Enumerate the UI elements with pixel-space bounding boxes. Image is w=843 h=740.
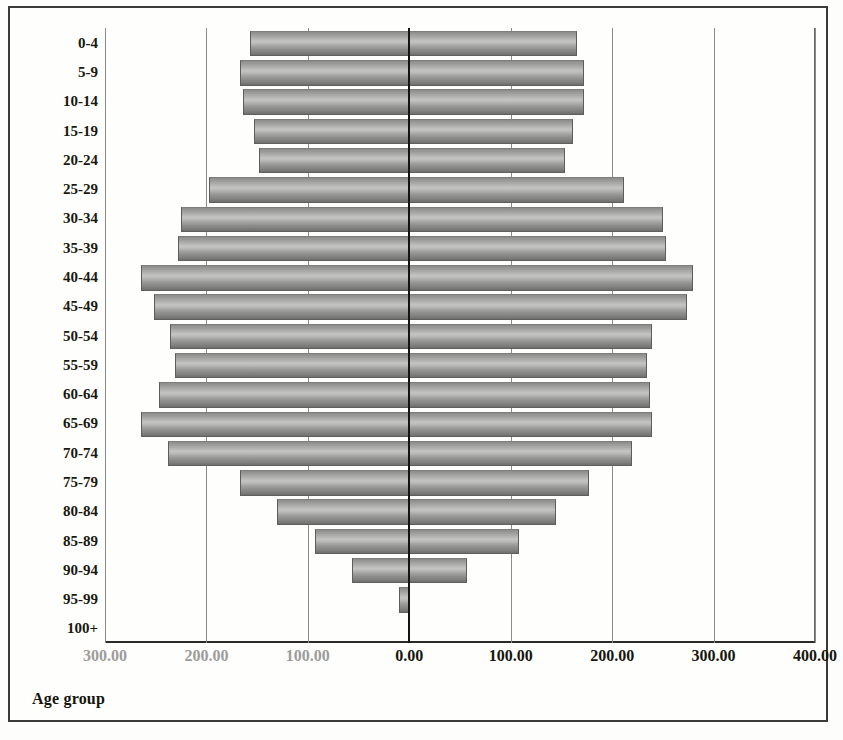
y-tick-label: 75-79 [63,475,98,490]
zero-axis-line [408,28,410,643]
y-tick-label: 60-64 [63,387,98,402]
pyramid-row [105,409,815,438]
pyramid-row [105,584,815,613]
x-tick-label: 200.00 [590,648,634,664]
y-tick-label: 5-9 [78,65,98,80]
gridline [815,28,816,643]
pyramid-row [105,28,815,57]
bar-female [409,558,467,583]
bar-female [409,499,556,524]
pyramid-row [105,145,815,174]
bar-female [409,294,687,319]
bar-male [159,382,411,407]
pyramid-row [105,174,815,203]
pyramid-row [105,233,815,262]
bar-female [409,89,583,114]
bar-male [240,470,410,495]
y-tick-label: 100+ [67,621,98,636]
y-tick-label: 15-19 [63,124,98,139]
bar-female [409,382,649,407]
y-tick-label: 70-74 [63,446,98,461]
y-tick-label: 30-34 [63,211,98,226]
x-tick-label: 300.00 [692,648,736,664]
bar-male [141,412,411,437]
x-tick-label: 400.00 [793,648,837,664]
y-tick-label: 55-59 [63,358,98,373]
pyramid-row [105,204,815,233]
y-tick-label: 25-29 [63,182,98,197]
bar-male [170,324,410,349]
y-tick-label: 95-99 [63,592,98,607]
pyramid-row [105,292,815,321]
bar-female [409,60,583,85]
bar-male [181,207,410,232]
y-tick-label: 65-69 [63,416,98,431]
bar-male [315,529,410,554]
bar-male [277,499,410,524]
bars-container [105,28,815,643]
bar-male [243,89,410,114]
bar-male [259,148,410,173]
bar-male [175,353,410,378]
bar-female [409,148,565,173]
pyramid-row [105,57,815,86]
y-tick-label: 90-94 [63,563,98,578]
bar-female [409,529,519,554]
pyramid-row [105,467,815,496]
pyramid-row [105,262,815,291]
axis-title: Age group [32,690,105,708]
y-tick-label: 85-89 [63,534,98,549]
pyramid-row [105,555,815,584]
bar-female [409,119,572,144]
y-tick-label: 0-4 [78,36,98,51]
x-tick-label: 300.00 [83,648,127,664]
x-axis-labels: 300.00200.00100.000.00100.00200.00300.00… [105,648,815,676]
pyramid-row [105,350,815,379]
bar-male [178,236,410,261]
pyramid-row [105,87,815,116]
x-tick-label: 0.00 [395,648,423,664]
bar-female [409,353,646,378]
x-tick-label: 200.00 [184,648,228,664]
bar-male [209,177,410,202]
bar-female [409,207,663,232]
pyramid-row [105,321,815,350]
plot-area [105,28,815,643]
bar-female [409,236,666,261]
y-tick-label: 45-49 [63,299,98,314]
bar-male [250,31,410,56]
bar-male [141,265,411,290]
bar-male [168,441,410,466]
bar-female [409,265,693,290]
bar-female [409,31,576,56]
pyramid-row [105,438,815,467]
y-tick-label: 40-44 [63,270,98,285]
y-tick-label: 50-54 [63,329,98,344]
x-tick-label: 100.00 [489,648,533,664]
y-tick-label: 80-84 [63,504,98,519]
bar-male [352,558,410,583]
y-axis-labels: 0-45-910-1415-1920-2425-2930-3435-3940-4… [20,28,102,643]
bar-male [254,119,410,144]
y-tick-label: 10-14 [63,94,98,109]
pyramid-row [105,116,815,145]
pyramid-row [105,497,815,526]
bar-male [240,60,410,85]
y-tick-label: 20-24 [63,153,98,168]
pyramid-row [105,614,815,643]
x-tick-label: 100.00 [286,648,330,664]
y-tick-label: 35-39 [63,241,98,256]
bar-male [154,294,411,319]
pyramid-row [105,526,815,555]
bar-female [409,441,632,466]
bar-female [409,412,651,437]
bar-female [409,470,589,495]
bar-female [409,324,651,349]
pyramid-row [105,379,815,408]
chart-frame: 0-45-910-1415-1920-2425-2930-3435-3940-4… [8,6,828,722]
bar-female [409,177,624,202]
